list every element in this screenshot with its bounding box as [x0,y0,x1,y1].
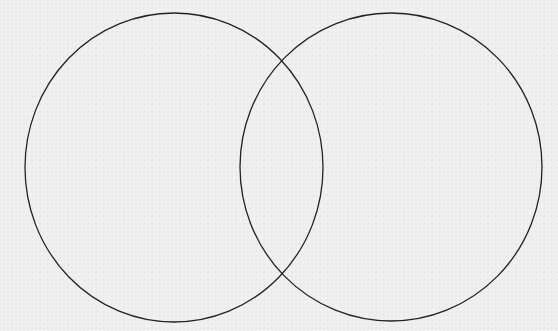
right-circle [240,13,542,321]
venn-diagram-canvas [0,0,558,331]
left-circle [25,13,323,322]
venn-diagram [0,0,558,331]
